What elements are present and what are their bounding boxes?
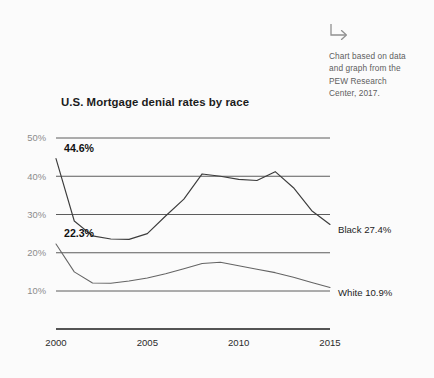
gridlines (56, 138, 330, 291)
data-point-label-white: 22.3% (64, 227, 95, 239)
series-line-white (56, 244, 330, 288)
data-point-labels: 44.6%22.3% (64, 142, 95, 239)
chart-plot-area: 10%20%30%40%50% 44.6%22.3% Black 27.4%Wh… (0, 0, 434, 378)
x-axis-tick-label: 2015 (319, 337, 340, 348)
x-axis-tick-label: 2005 (137, 337, 158, 348)
data-point-label-black: 44.6% (64, 142, 95, 154)
series-end-label-black: Black 27.4% (338, 224, 392, 235)
series-lines (56, 159, 330, 288)
chart-page: Chart based on data and graph from the P… (0, 0, 434, 378)
y-axis-tick-label: 40% (27, 171, 46, 182)
x-axis-tick-labels: 2000200520102015 (45, 337, 340, 348)
y-axis-tick-label: 10% (27, 285, 46, 296)
x-axis-tick-label: 2000 (45, 337, 66, 348)
line-chart-svg: 10%20%30%40%50% 44.6%22.3% Black 27.4%Wh… (0, 0, 434, 378)
y-axis-tick-labels: 10%20%30%40%50% (27, 132, 46, 296)
series-line-black (56, 159, 330, 240)
y-axis-tick-label: 30% (27, 209, 46, 220)
y-axis-tick-label: 20% (27, 247, 46, 258)
y-axis-tick-label: 50% (27, 132, 46, 143)
x-axis-tick-label: 2010 (228, 337, 249, 348)
series-end-label-white: White 10.9% (338, 287, 393, 298)
series-end-labels: Black 27.4%White 10.9% (338, 224, 393, 298)
